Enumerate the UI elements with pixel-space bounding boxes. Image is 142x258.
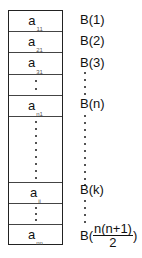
cell-ellipsis-3 — [9, 203, 62, 224]
cell-base: a — [28, 227, 35, 242]
cell-base: a — [30, 185, 37, 200]
cell-aij: aij — [9, 182, 62, 203]
vertical-ellipsis-icon — [84, 70, 85, 98]
b-last-suffix: ) — [133, 229, 137, 243]
cell-base: a — [28, 55, 35, 70]
vertical-ellipsis-icon — [35, 75, 36, 95]
vertical-ellipsis-icon — [35, 117, 36, 182]
fraction-numerator: n(n+1) — [93, 222, 133, 236]
cell-base: a — [28, 98, 35, 113]
fraction-denominator: 2 — [109, 236, 116, 249]
fraction: n(n+1) 2 — [93, 222, 133, 249]
vertical-ellipsis-icon — [35, 204, 36, 224]
label-bk: B(k) — [80, 183, 104, 197]
cell-base: a — [28, 13, 35, 28]
cell-ann: ann — [9, 224, 62, 245]
array-column: a11 a21 a31 an1 aij ann — [8, 10, 63, 245]
label-b1: B(1) — [80, 13, 105, 27]
label-b-last: B( n(n+1) 2 ) — [80, 222, 137, 249]
b-last-prefix: B( — [80, 229, 93, 243]
cell-a21: a21 — [9, 31, 62, 52]
cell-a11: a11 — [9, 11, 62, 31]
cell-ellipsis-1 — [9, 74, 62, 95]
cell-subscript: nn — [36, 240, 43, 246]
label-b2: B(2) — [80, 34, 105, 48]
cell-base: a — [28, 34, 35, 49]
label-b3: B(3) — [80, 56, 105, 70]
cell-ellipsis-2 — [9, 116, 62, 182]
cell-a31: a31 — [9, 52, 62, 74]
label-bn: B(n) — [80, 97, 105, 111]
vertical-ellipsis-icon — [84, 113, 85, 185]
cell-an1: an1 — [9, 95, 62, 116]
